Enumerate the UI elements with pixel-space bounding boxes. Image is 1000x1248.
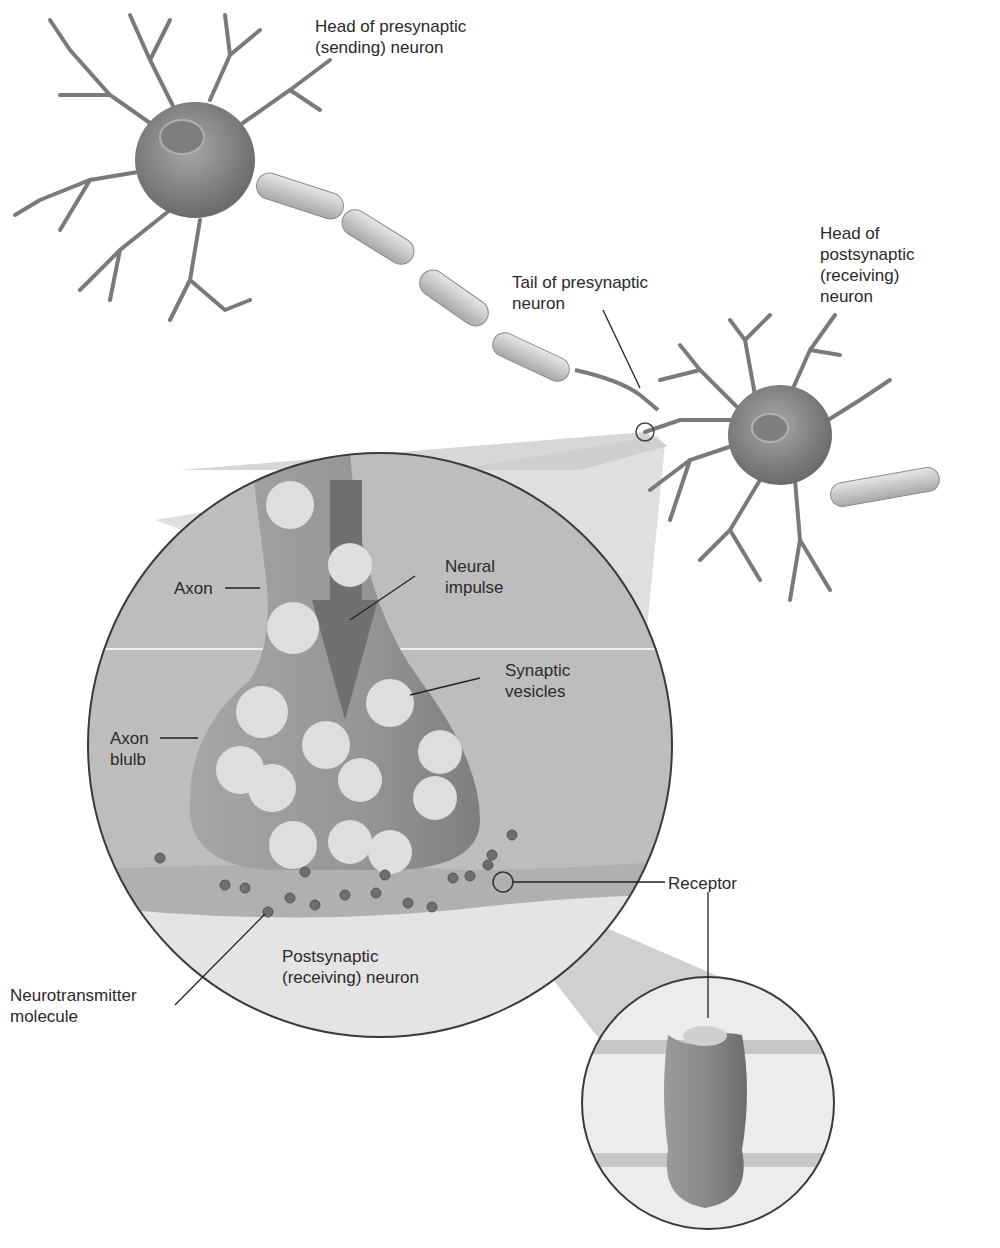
label-tail-presynaptic: Tail of presynaptic neuron <box>512 272 648 314</box>
label-head-postsynaptic: Head of postsynaptic (receiving) neuron <box>820 223 915 307</box>
postsynaptic-myelin <box>829 466 941 509</box>
label-head-presynaptic: Head of presynaptic (sending) neuron <box>315 16 466 58</box>
label-neurotransmitter: Neurotransmitter molecule <box>10 985 137 1027</box>
label-receptor: Receptor <box>668 873 737 894</box>
presynaptic-nucleus <box>160 120 204 154</box>
axon-terminal <box>575 370 658 410</box>
label-neural-impulse: Neural impulse <box>445 556 504 598</box>
label-synaptic-vesicles: Synaptic vesicles <box>505 660 570 702</box>
presynaptic-soma <box>135 102 255 218</box>
label-axon: Axon <box>174 578 213 599</box>
receptor-protein <box>664 1033 747 1208</box>
label-postsynaptic-neuron: Postsynaptic (receiving) neuron <box>282 946 419 988</box>
label-axon-bulb: Axon blulb <box>110 728 149 770</box>
synapse-diagram <box>0 0 1000 1248</box>
